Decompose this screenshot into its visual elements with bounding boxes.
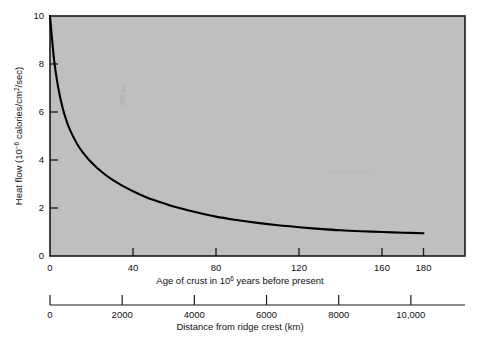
- x-tick-label: 120: [291, 262, 307, 273]
- secondary-axis-title: Distance from ridge crest (km): [176, 321, 303, 332]
- x-tick-label: 80: [211, 262, 222, 273]
- y-tick-label: 10: [33, 10, 44, 21]
- figure-container: 0246810 Heat flow (10−6 calories/cm2/sec…: [0, 0, 481, 337]
- y-tick-label: 4: [39, 154, 44, 165]
- plot-area: [50, 16, 465, 256]
- secondary-tick-label: 8000: [328, 309, 349, 320]
- x-tick-label: 0: [47, 262, 52, 273]
- secondary-tick-label: 2000: [112, 309, 133, 320]
- y-tick-label: 2: [39, 202, 44, 213]
- x-axis-title: Age of crust in 106 years before present: [156, 275, 324, 286]
- heat-flow-chart: 0246810 Heat flow (10−6 calories/cm2/sec…: [0, 0, 481, 337]
- y-tick-label: 0: [39, 250, 44, 261]
- y-tick-label: 6: [39, 106, 44, 117]
- secondary-tick-label: 0: [47, 309, 52, 320]
- secondary-tick-label: 4000: [184, 309, 205, 320]
- secondary-tick-label: 6000: [256, 309, 277, 320]
- x-tick-label: 160: [374, 262, 390, 273]
- x-tick-label: 180: [416, 262, 432, 273]
- y-tick-label: 8: [39, 58, 44, 69]
- x-tick-label: 40: [128, 262, 139, 273]
- y-axis-title: Heat flow (10−6 calories/cm2/sec): [13, 67, 24, 205]
- secondary-tick-label: 10,000: [396, 309, 425, 320]
